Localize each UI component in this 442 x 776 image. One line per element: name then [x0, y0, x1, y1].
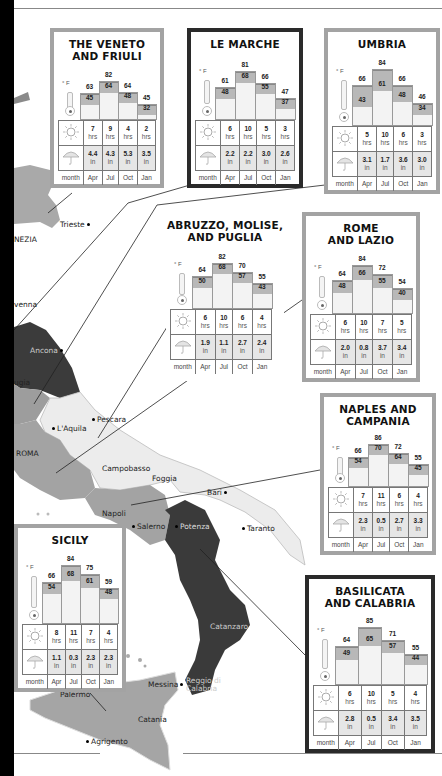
month-cell: Oct: [373, 365, 393, 380]
thermometer-icon: [179, 273, 185, 295]
low-temp-value: 43: [252, 283, 272, 290]
month-row: monthAprJulOctJan: [314, 736, 427, 751]
place-pescara: Pescara: [90, 415, 126, 424]
low-temp-value: 32: [137, 104, 156, 111]
sunshine-cell: 4hrs: [404, 686, 426, 711]
month-label: month: [311, 365, 336, 380]
month-cell: Jul: [377, 177, 394, 192]
rainfall-cell: 2.3in: [354, 513, 373, 538]
low-temp-value: 43: [352, 96, 372, 103]
month-cell: Apr: [196, 360, 216, 375]
rainfall-cell: 2.0in: [336, 340, 356, 365]
high-temp-value: 72: [372, 264, 392, 271]
thermometer-icon: [319, 276, 325, 298]
rainfall-cell: 3.4in: [392, 340, 411, 365]
umbrella-icon: [311, 340, 336, 365]
place-venezia: NEZIA: [14, 235, 37, 244]
place-ravenna: venna: [14, 300, 37, 309]
low-temp-value: 61: [372, 80, 392, 87]
place-napoli: Napoli: [102, 509, 126, 518]
rainfall-cell: 3.4in: [382, 711, 405, 736]
thermometer-bulb-icon: [335, 473, 345, 483]
panel-title: LE MARCHE: [191, 38, 299, 50]
sunshine-cell: 3hrs: [276, 121, 295, 146]
sunshine-cell: 10hrs: [240, 121, 257, 146]
thermometer-bulb-icon: [65, 106, 75, 116]
month-cell: Oct: [257, 171, 276, 186]
place-catania: Catania: [138, 715, 167, 724]
panel-title: UMBRIA: [328, 38, 436, 50]
sunshine-cell: 7hrs: [373, 315, 393, 340]
rainfall-row: 1.9in1.1in2.7in2.4in: [171, 335, 272, 360]
month-cell: Apr: [336, 365, 356, 380]
sunshine-cell: 6hrs: [196, 310, 216, 335]
rainfall-cell: 3.6in: [394, 152, 413, 177]
low-temp-value: 70: [368, 444, 388, 451]
month-label: month: [23, 675, 48, 690]
sunshine-cell: 6hrs: [394, 127, 413, 152]
place-ancona: Ancona: [30, 346, 65, 355]
sunshine-cell: 6hrs: [233, 310, 253, 335]
month-cell: Jul: [355, 365, 373, 380]
climate-panel-rome: ROMEAND LAZIO° F64488466725554406hrs10hr…: [302, 212, 420, 382]
high-temp-value: 64: [332, 270, 352, 277]
high-temp-value: 64: [192, 266, 212, 273]
panel-title-line: ROME: [306, 222, 416, 234]
sun-icon: [23, 625, 48, 650]
sunshine-cell: 10hrs: [377, 127, 394, 152]
low-temp-value: 48: [332, 282, 352, 289]
high-temp-value: 55: [252, 273, 272, 280]
rainfall-cell: 3.0in: [257, 146, 276, 171]
low-temp-value: 50: [192, 277, 212, 284]
high-temp-value: 84: [372, 59, 392, 66]
panel-title-line: AND FRIULI: [54, 50, 160, 62]
climate-panel-marche: LE MARCHE° F61488168665547376hrs10hrs5hr…: [187, 28, 303, 188]
low-temp-value: 55: [255, 83, 275, 90]
rainfall-row: 3.1in1.7in3.6in3.0in: [333, 152, 432, 177]
high-temp-value: 66: [392, 75, 412, 82]
panel-title-line: BASILICATA: [309, 585, 431, 597]
low-temp-value: 61: [80, 577, 99, 584]
low-temp-value: 48: [215, 88, 235, 95]
high-temp-value: 55: [404, 644, 427, 651]
rainfall-cell: 3.7in: [373, 340, 393, 365]
month-row: monthAprJulOctJan: [333, 177, 432, 192]
low-temp-value: 54: [348, 457, 368, 464]
panel-title-line: ABRUZZO, MOLISE,: [166, 219, 284, 231]
rainfall-cell: 4.4in: [84, 146, 103, 171]
climate-panel-abruzzo: ABRUZZO, MOLISE,AND PUGLIA° F64508268705…: [166, 213, 284, 381]
umbrella-icon: [314, 711, 339, 736]
sunshine-cell: 6hrs: [339, 686, 362, 711]
month-cell: Jan: [409, 538, 428, 553]
panel-title: ABRUZZO, MOLISE,AND PUGLIA: [166, 219, 284, 243]
thermometer-icon: [31, 576, 37, 608]
sunshine-cell: 5hrs: [358, 127, 377, 152]
panel-title-line: AND LAZIO: [306, 234, 416, 246]
high-temp-value: 84: [352, 255, 372, 262]
climate-panel-basilicata: BASILICATAAND CALABRIA° F644985657157554…: [305, 575, 435, 753]
rainfall-cell: 3.1in: [358, 152, 377, 177]
month-cell: Jan: [392, 365, 411, 380]
sunshine-row: 6hrs10hrs5hrs4hrs: [314, 686, 427, 711]
climate-table: 6hrs10hrs5hrs3hrs2.2in2.2in3.0in2.6inmon…: [195, 120, 295, 185]
rainfall-cell: 2.6in: [276, 146, 295, 171]
panel-title-line: UMBRIA: [328, 38, 436, 50]
month-label: month: [329, 538, 354, 553]
rainfall-cell: 2.3in: [100, 650, 118, 675]
rainfall-row: 2.8in0.5in3.4in3.5in: [314, 711, 427, 736]
sunshine-row: 6hrs10hrs5hrs3hrs: [196, 121, 295, 146]
climate-panel-veneto: THE VENETOAND FRIULI° F63458264644845327…: [50, 28, 164, 188]
panel-title: ROMEAND LAZIO: [306, 222, 416, 246]
panel-title-line: NAPLES AND: [324, 403, 432, 415]
thermometer-icon: [322, 639, 328, 669]
low-temp-value: 64: [99, 82, 118, 89]
rainfall-cell: 2.4in: [252, 335, 271, 360]
rainfall-cell: 2.7in: [233, 335, 253, 360]
sunshine-cell: 8hrs: [48, 625, 66, 650]
high-temp-value: 46: [412, 93, 432, 100]
month-label: month: [314, 736, 339, 751]
sun-icon: [59, 121, 84, 146]
rainfall-cell: 3.5in: [404, 711, 426, 736]
rainfall-row: 2.3in0.5in2.7in3.3in: [329, 513, 428, 538]
high-temp-value: 64: [118, 82, 137, 89]
